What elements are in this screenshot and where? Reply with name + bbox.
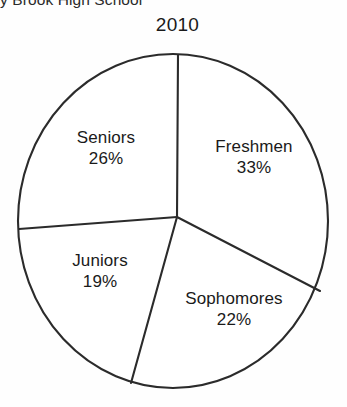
slice-label-seniors: Seniors 26% xyxy=(48,127,164,169)
slice-percent-sophomores: 22% xyxy=(158,309,310,330)
slice-name-sophomores: Sophomores xyxy=(158,288,310,309)
slice-label-juniors: Juniors 19% xyxy=(44,250,156,292)
slice-percent-juniors: 19% xyxy=(44,271,156,292)
slice-percent-freshmen: 33% xyxy=(196,157,312,178)
pie-circle-outline xyxy=(18,54,328,388)
pie-chart-figure: y Brook High School 2010 Freshmen 33% So… xyxy=(0,0,347,407)
slice-percent-seniors: 26% xyxy=(48,148,164,169)
slice-label-sophomores: Sophomores 22% xyxy=(158,288,310,330)
slice-name-freshmen: Freshmen xyxy=(196,136,312,157)
pie-graphic xyxy=(0,0,347,407)
slice-name-seniors: Seniors xyxy=(48,127,164,148)
divider-seniors-freshmen xyxy=(177,55,178,217)
slice-label-freshmen: Freshmen 33% xyxy=(196,136,312,178)
slice-name-juniors: Juniors xyxy=(44,250,156,271)
